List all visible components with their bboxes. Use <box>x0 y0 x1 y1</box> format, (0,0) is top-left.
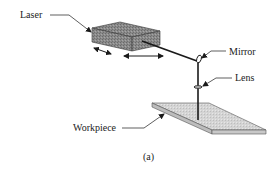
workpiece-plate <box>152 103 266 134</box>
mirror-label: Mirror <box>229 47 256 57</box>
laser-label: Laser <box>20 10 42 20</box>
mirror <box>196 54 203 63</box>
lens <box>194 86 202 89</box>
lens-leader-line <box>203 78 232 86</box>
workpiece-label: Workpiece <box>73 123 116 133</box>
lens-label: Lens <box>235 73 254 83</box>
laser-system-diagram <box>0 0 280 171</box>
laser-box <box>92 22 160 51</box>
laser-leader-line <box>50 15 91 32</box>
figure-caption: (a) <box>143 152 154 162</box>
workpiece-leader-line <box>122 114 164 128</box>
mirror-leader-line <box>202 51 226 58</box>
beam-horizontal <box>142 41 197 61</box>
motion-arrow-depth <box>94 48 111 54</box>
